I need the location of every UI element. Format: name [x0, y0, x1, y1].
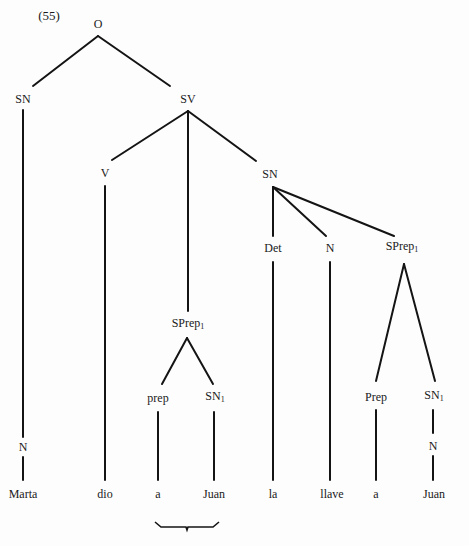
node-SPrep-mid: SPrep1 [172, 316, 205, 334]
node-N-right: N [429, 439, 438, 453]
edge-SPrep-Prep [376, 264, 404, 381]
node-SV: SV [180, 92, 195, 106]
word-a: a [373, 487, 378, 501]
node-label-subscript: 1 [440, 394, 444, 403]
node-Prep-right: Prep [365, 390, 387, 404]
word-llave: llave [320, 487, 343, 501]
edge-SPrep-SN1 [404, 264, 435, 381]
word-la: la [269, 487, 278, 501]
node-N-subject: N [19, 440, 28, 454]
node-label-base: SN [205, 389, 220, 403]
edge-SPrep-prep [162, 338, 187, 384]
node-SPrep-right: SPrep1 [386, 239, 419, 257]
node-V: V [101, 166, 110, 180]
node-label-base: SPrep [172, 316, 201, 330]
edge-SPrep-SN1 [187, 338, 213, 384]
word-dio: dio [97, 487, 112, 501]
node-SN1-mid: SN1 [205, 389, 224, 407]
edge-SV-V [112, 111, 188, 160]
edge-SN-N [273, 187, 326, 236]
node-label-subscript: 1 [200, 322, 204, 331]
node-SN-object: SN [262, 167, 277, 181]
edge-SN-SPrep [273, 187, 394, 236]
node-label-subscript: 1 [414, 245, 418, 254]
node-SN1-right: SN1 [424, 388, 443, 406]
syntax-tree-edges [0, 0, 469, 546]
node-N-object: N [326, 241, 335, 255]
underbrace [155, 522, 219, 530]
word-juan: Juan [203, 487, 225, 501]
edge-SV-SN [188, 111, 256, 161]
node-label-subscript: 1 [221, 395, 225, 404]
node-label-base: SN [424, 388, 439, 402]
node-label-base: SPrep [386, 239, 415, 253]
edge-O-SN [33, 36, 98, 86]
edge-O-SV [98, 36, 170, 86]
word-juan: Juan [423, 487, 445, 501]
word-marta: Marta [9, 487, 38, 501]
node-SN-subject: SN [15, 92, 30, 106]
node-O: O [94, 17, 103, 31]
node-Det: Det [264, 241, 281, 255]
node-prep-mid: prep [147, 391, 168, 405]
word-a: a [155, 487, 160, 501]
example-number: (55) [38, 9, 60, 23]
